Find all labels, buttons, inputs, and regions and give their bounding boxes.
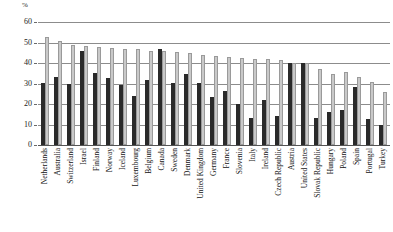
bar-group [286, 22, 299, 145]
x-axis-category-labels: NetherlandsAustraliaSwitzerlandIsraelFin… [38, 148, 390, 232]
bar-light [383, 92, 387, 145]
bar-light [305, 63, 309, 145]
bar-light [58, 41, 62, 145]
bar-group [233, 22, 246, 145]
bar-light [71, 45, 75, 145]
bar-group [194, 22, 207, 145]
x-axis-label-text: Portugal [366, 148, 374, 173]
bar-light [123, 49, 127, 145]
x-axis-label: United States [299, 148, 312, 232]
x-axis-label-text: Switzerland [67, 148, 75, 184]
y-axis-tick-label: 10 [10, 121, 32, 129]
bar-light [45, 37, 49, 145]
x-axis-label: Norway [103, 148, 116, 232]
x-axis-label-text: Australia [54, 148, 62, 176]
x-axis-label: Sweden [168, 148, 181, 232]
bar-light [266, 59, 270, 145]
x-axis-label: United Kingdom [194, 148, 207, 232]
bar-light [84, 46, 88, 145]
x-axis-label-text: Poland [340, 148, 348, 169]
x-axis-label: Czech Republic [273, 148, 286, 232]
bar-group [77, 22, 90, 145]
bar-group [51, 22, 64, 145]
x-axis-label-text: Finland [93, 148, 101, 171]
y-axis-tick-label: 50 [10, 39, 32, 47]
x-axis-label-text: Spain [353, 148, 361, 165]
bar-group [103, 22, 116, 145]
x-axis-label-text: Luxembourg [132, 148, 140, 187]
bar-light [149, 51, 153, 145]
x-axis-label: Belgium [142, 148, 155, 232]
x-axis-label: Canada [155, 148, 168, 232]
x-axis-label-text: Germany [210, 148, 218, 176]
bar-light [201, 55, 205, 145]
bar-light [97, 47, 101, 145]
bar-light [253, 59, 257, 145]
x-axis-label: Australia [51, 148, 64, 232]
bar-group [220, 22, 233, 145]
bar-group [90, 22, 103, 145]
bar-group [273, 22, 286, 145]
x-axis-label: Netherlands [38, 148, 51, 232]
bar-group [364, 22, 377, 145]
bar-group [207, 22, 220, 145]
x-axis-label-text: Italy [249, 148, 257, 162]
x-axis-label-text: Canada [158, 148, 166, 171]
bar-light [227, 57, 231, 145]
y-axis-tick-label: 40 [10, 59, 32, 67]
y-axis-tick-label: 0 [10, 141, 32, 149]
y-axis-unit-label: % [22, 1, 28, 9]
y-axis-tick-mark [34, 43, 37, 44]
x-axis-label: Hungary [325, 148, 338, 232]
y-axis-tick-mark [34, 63, 37, 64]
x-axis-label-text: Israel [80, 148, 88, 165]
x-axis-label: Iceland [116, 148, 129, 232]
x-axis-label: Italy [247, 148, 260, 232]
x-axis-label-text: France [223, 148, 231, 168]
bar-group [64, 22, 77, 145]
x-axis-label: Poland [338, 148, 351, 232]
gridline-0 [38, 145, 390, 146]
bar-group [247, 22, 260, 145]
bar-group [142, 22, 155, 145]
y-axis-tick-mark [34, 84, 37, 85]
bar-light [292, 63, 296, 145]
x-axis-label-text: Norway [106, 148, 114, 172]
bar-light [162, 51, 166, 145]
bar-light [318, 69, 322, 145]
x-axis-label: France [220, 148, 233, 232]
x-axis-label-text: Iceland [119, 148, 127, 170]
x-axis-label: Slovenia [233, 148, 246, 232]
bar-group [155, 22, 168, 145]
bar-group [312, 22, 325, 145]
plot-area [38, 22, 390, 145]
x-axis-label: Ireland [260, 148, 273, 232]
bar-group [116, 22, 129, 145]
bar-light [175, 52, 179, 145]
bar-group [377, 22, 390, 145]
bar-light [110, 48, 114, 145]
x-axis-label-text: Sweden [171, 148, 179, 172]
bar-group [129, 22, 142, 145]
x-axis-label: Israel [77, 148, 90, 232]
bar-group [168, 22, 181, 145]
y-axis-tick-mark [34, 145, 37, 146]
bar-light [136, 49, 140, 145]
bar-light [279, 60, 283, 145]
x-axis-label: Denmark [181, 148, 194, 232]
bar-groups [38, 22, 390, 145]
y-axis-tick-mark [34, 22, 37, 23]
x-axis-label-text: Hungary [327, 148, 335, 174]
x-axis-label: Austria [286, 148, 299, 232]
bar-group [38, 22, 51, 145]
bar-group [181, 22, 194, 145]
x-axis-label-text: Ireland [262, 148, 270, 169]
bar-light [188, 53, 192, 145]
x-axis-label: Turkey [377, 148, 390, 232]
x-axis-label: Portugal [364, 148, 377, 232]
bar-light [240, 58, 244, 145]
x-axis-label-text: United Kingdom [197, 148, 205, 199]
x-axis-label-text: Netherlands [41, 148, 49, 184]
x-axis-label-text: Denmark [184, 148, 192, 176]
bar-light [357, 77, 361, 145]
